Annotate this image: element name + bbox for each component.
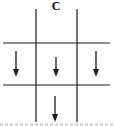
flow-diagram: C [0,0,114,126]
arrow-down-icon [52,96,58,122]
cropped-caption [0,123,114,126]
arrow-down-icon [53,57,59,77]
arrow-down-icon [93,51,99,77]
arrows [13,51,99,122]
panel-label: C [48,0,64,13]
arrow-down-icon [13,51,19,77]
grid-drawing [0,0,114,126]
